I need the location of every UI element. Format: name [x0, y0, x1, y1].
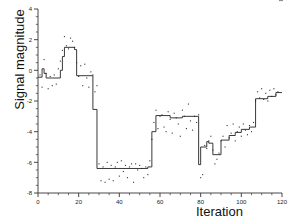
scatter-point — [253, 122, 254, 123]
scatter-point — [273, 88, 274, 89]
y-axis-label: Signal magnitude — [12, 0, 27, 135]
scatter-point — [235, 140, 236, 141]
scatter-point — [94, 91, 95, 92]
scatter-point — [121, 160, 122, 161]
scatter-point — [267, 100, 268, 101]
scatter-point — [281, 0, 282, 1]
scatter-point — [64, 36, 65, 37]
scatter-point — [269, 90, 270, 91]
scatter-point — [100, 180, 101, 181]
scatter-point — [204, 145, 205, 146]
scatter-point — [192, 130, 193, 131]
scatter-point — [88, 87, 89, 88]
scatter-point — [48, 88, 49, 89]
scatter-point — [145, 166, 146, 167]
x-tick-labels: 020406080100120 — [36, 199, 287, 205]
scatter-point — [44, 59, 45, 60]
scatter-point — [168, 111, 169, 112]
scatter-point — [39, 74, 40, 75]
scatter-point — [196, 122, 197, 123]
y-tick-marks — [34, 9, 38, 193]
y-tick-label: -2 — [27, 98, 33, 104]
scatter-point — [115, 166, 116, 167]
scatter-point — [123, 171, 124, 172]
scatter-point — [172, 133, 173, 134]
chart-canvas: 420-2-4-6-8 020406080100120 — [0, 0, 292, 224]
y-tick-labels: 420-2-4-6-8 — [27, 6, 33, 196]
scatter-point — [216, 159, 217, 160]
scatter-point — [62, 50, 63, 51]
scatter-point — [70, 38, 71, 39]
scatter-point — [188, 104, 189, 105]
scatter-point — [86, 77, 87, 78]
scatter-point — [54, 74, 55, 75]
figure-container: 420-2-4-6-8 020406080100120 Signal magni… — [0, 0, 292, 224]
x-tick-label: 60 — [157, 199, 164, 205]
scatter-point — [257, 91, 258, 92]
scatter-point — [233, 123, 234, 124]
scatter-point — [56, 84, 57, 85]
scatter-point — [135, 163, 136, 164]
scatter-point — [164, 127, 165, 128]
scatter-point — [279, 0, 280, 1]
scatter-point — [66, 45, 67, 46]
y-axis-group: 420-2-4-6-8 — [27, 6, 38, 196]
y-tick-label: 2 — [29, 37, 33, 43]
scatter-point — [225, 146, 226, 147]
scatter-point — [265, 93, 266, 94]
scatter-point — [60, 61, 61, 62]
scatter-point — [133, 182, 134, 183]
scatter-point — [241, 136, 242, 137]
scatter-point — [180, 136, 181, 137]
scatter-point — [105, 182, 106, 183]
scatter-point — [147, 174, 148, 175]
scatter-point — [131, 163, 132, 164]
scatter-point — [170, 119, 171, 120]
scatter-point — [149, 160, 150, 161]
x-tick-label: 20 — [75, 199, 82, 205]
scatter-point — [84, 64, 85, 65]
scatter-point — [103, 166, 104, 167]
scatter-point — [202, 174, 203, 175]
scatter-point — [174, 113, 175, 114]
scatter-point — [98, 163, 99, 164]
step-fit-line — [38, 47, 282, 168]
scatter-point — [58, 68, 59, 69]
scatter-point — [109, 179, 110, 180]
scatter-point — [200, 177, 201, 178]
scatter-point — [239, 127, 240, 128]
scatter-point — [231, 133, 232, 134]
y-tick-label: -6 — [27, 160, 33, 166]
scatter-point — [52, 85, 53, 86]
scatter-point — [137, 169, 138, 170]
scatter-point — [90, 71, 91, 72]
scatter-point — [113, 180, 114, 181]
scatter-point — [251, 131, 252, 132]
scatter-point — [182, 110, 183, 111]
scatter-point — [166, 131, 167, 132]
scatter-point — [190, 120, 191, 121]
x-tick-marks — [38, 193, 282, 197]
scatter-point — [42, 87, 43, 88]
scatter-point — [157, 128, 158, 129]
scatter-point — [214, 163, 215, 164]
y-tick-label: 4 — [29, 6, 33, 12]
scatter-point — [155, 110, 156, 111]
scatter-point — [125, 165, 126, 166]
scatter-point — [143, 177, 144, 178]
scatter-point — [218, 153, 219, 154]
scatter-point — [111, 165, 112, 166]
scatter-point — [107, 162, 108, 163]
scatter-point — [96, 85, 97, 86]
scatter-point — [249, 125, 250, 126]
scatter-points — [39, 0, 282, 183]
x-tick-label: 120 — [277, 199, 288, 205]
scatter-point — [153, 122, 154, 123]
scatter-point — [139, 165, 140, 166]
scatter-point — [227, 125, 228, 126]
scatter-point — [68, 48, 69, 49]
scatter-point — [247, 134, 248, 135]
x-tick-label: 40 — [116, 199, 123, 205]
scatter-point — [222, 136, 223, 137]
scatter-point — [50, 76, 51, 77]
